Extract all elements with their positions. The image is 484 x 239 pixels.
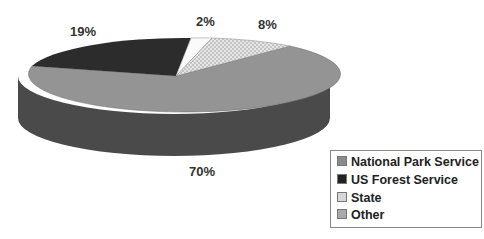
label-2: 2% (196, 14, 215, 29)
label-19: 19% (70, 24, 96, 39)
swatch-icon (337, 209, 347, 219)
label-70: 70% (189, 164, 215, 179)
legend-item: Other (337, 208, 384, 222)
label-8: 8% (258, 17, 277, 32)
legend: National Park Service US Forest Service … (330, 150, 482, 228)
swatch-icon (337, 174, 347, 184)
legend-item: US Forest Service (337, 173, 458, 187)
legend-item: National Park Service (337, 155, 479, 169)
swatch-icon (337, 156, 347, 166)
swatch-icon (337, 192, 347, 202)
legend-item: State (337, 191, 382, 205)
